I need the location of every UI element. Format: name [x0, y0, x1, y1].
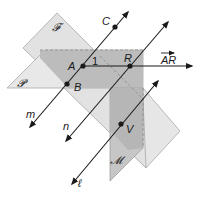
point-a-label: A	[67, 60, 75, 72]
angle-1-label: 1	[92, 55, 98, 67]
geometry-diagram: 𝓕 𝓟 𝓜 A B C R V 1 m n ℓ AR	[0, 0, 207, 198]
point-r[interactable]	[127, 63, 132, 68]
line-m-label: m	[26, 108, 35, 120]
point-v[interactable]	[118, 121, 123, 126]
point-r-label: R	[124, 52, 132, 64]
diagram-canvas: 𝓕 𝓟 𝓜 A B C R V 1 m n ℓ AR	[0, 0, 207, 198]
line-n-label: n	[63, 120, 69, 132]
point-c[interactable]	[112, 24, 117, 29]
point-b[interactable]	[64, 81, 69, 86]
point-b-label: B	[74, 81, 81, 93]
point-c-label: C	[102, 15, 110, 27]
line-l-label: ℓ	[77, 177, 82, 189]
point-a[interactable]	[80, 63, 85, 68]
ray-ar-label: AR	[160, 54, 176, 66]
